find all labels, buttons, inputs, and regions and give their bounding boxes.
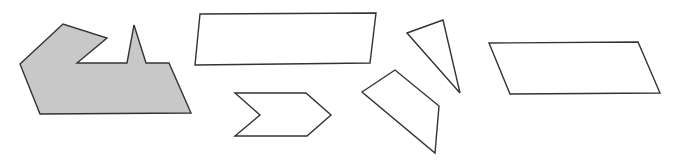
shapes-canvas	[0, 0, 675, 164]
quadrilateral	[362, 70, 439, 153]
chevron-arrow	[235, 93, 331, 136]
triangle	[407, 20, 460, 93]
parallelogram-right	[489, 42, 660, 94]
shaded-irregular-polygon	[20, 24, 191, 114]
parallelogram-top	[195, 13, 376, 65]
